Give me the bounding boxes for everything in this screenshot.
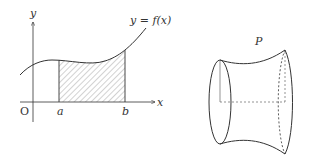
solid-label: P	[254, 35, 263, 48]
origin-label: O	[20, 105, 29, 118]
x-axis-label: x	[157, 96, 164, 109]
top-silhouette	[220, 50, 285, 64]
hatched-area	[59, 50, 125, 102]
b-label: b	[122, 105, 129, 118]
right-base-front-arc	[285, 50, 293, 154]
curve-label: y = f(x)	[129, 14, 171, 27]
area-under-curve-figure: y x O a b y = f(x)	[20, 7, 171, 122]
solid-of-revolution-figure: P	[209, 35, 293, 154]
y-axis-label: y	[29, 7, 37, 20]
diagram-canvas: y x O a b y = f(x) P	[0, 0, 314, 160]
bottom-silhouette	[220, 140, 285, 154]
a-label: a	[57, 105, 64, 118]
